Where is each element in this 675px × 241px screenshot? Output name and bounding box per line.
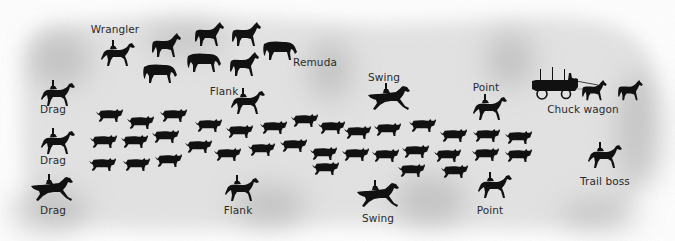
remuda-horse-icon — [186, 52, 222, 74]
steer-icon — [195, 118, 223, 133]
rider-drag-icon — [40, 126, 76, 156]
rider-trail-boss-icon — [587, 140, 623, 170]
steer-icon — [409, 118, 437, 133]
label-point-top: Point — [473, 82, 500, 93]
steer-icon — [318, 120, 346, 135]
label-drag-2: Drag — [40, 155, 66, 166]
steer-icon — [155, 153, 183, 168]
steer-icon — [152, 129, 180, 144]
steer-icon — [214, 147, 242, 162]
label-swing-top: Swing — [368, 72, 400, 83]
steer-icon — [185, 139, 213, 154]
steer-icon — [127, 115, 155, 130]
rider-drag-icon — [30, 172, 74, 204]
steer-icon — [310, 146, 338, 161]
steer-icon — [160, 108, 188, 123]
steer-icon — [374, 122, 402, 137]
steer-icon — [402, 144, 430, 159]
label-trail-boss: Trail boss — [580, 176, 630, 187]
steer-icon — [344, 125, 372, 140]
label-wrangler: Wrangler — [91, 24, 139, 35]
rider-wrangler-icon — [100, 38, 136, 68]
label-swing-bottom: Swing — [362, 213, 394, 224]
steer-icon — [291, 113, 319, 128]
label-flank-top: Flank — [210, 86, 239, 97]
steer-icon — [342, 147, 370, 162]
steer-icon — [89, 157, 117, 172]
steer-icon — [280, 138, 308, 153]
label-chuck-wagon: Chuck wagon — [547, 104, 619, 115]
remuda-horse-icon — [228, 52, 260, 78]
steer-icon — [372, 148, 400, 163]
cattle-drive-diagram: WranglerRemudaFlankSwingPointChuck wagon… — [0, 0, 675, 241]
remuda-horse-icon — [150, 33, 182, 59]
remuda-horse-icon — [230, 22, 262, 48]
rider-flank-icon — [224, 173, 260, 203]
steer-icon — [90, 134, 118, 149]
wagon-horse-icon — [577, 80, 611, 102]
rider-swing-icon — [356, 178, 400, 210]
label-point-bottom: Point — [477, 205, 504, 216]
steer-icon — [260, 120, 288, 135]
steer-icon — [96, 108, 124, 123]
steer-icon — [226, 124, 254, 139]
steer-icon — [441, 164, 469, 179]
steer-icon — [505, 148, 533, 163]
steer-icon — [312, 161, 340, 176]
steer-icon — [123, 157, 151, 172]
steer-icon — [121, 134, 149, 149]
steer-icon — [248, 142, 276, 157]
label-remuda: Remuda — [293, 57, 337, 68]
steer-icon — [440, 128, 468, 143]
rider-point-icon — [472, 92, 508, 122]
label-flank-bottom: Flank — [224, 205, 253, 216]
rider-swing-icon — [367, 82, 411, 112]
steer-icon — [434, 148, 462, 163]
remuda-horse-icon — [193, 22, 225, 48]
steer-icon — [398, 163, 426, 178]
steer-icon — [505, 130, 533, 145]
label-drag-3: Drag — [40, 205, 66, 216]
steer-icon — [472, 147, 500, 162]
wagon-horse-icon — [614, 80, 646, 102]
steer-icon — [473, 128, 501, 143]
remuda-horse-icon — [142, 63, 178, 85]
label-drag-1: Drag — [40, 104, 66, 115]
rider-point-icon — [477, 170, 513, 200]
